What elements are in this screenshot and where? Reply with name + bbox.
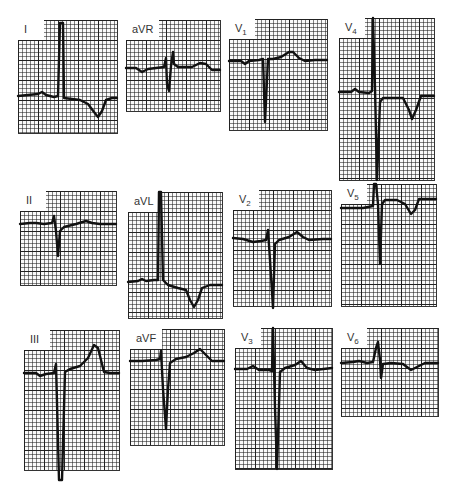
ecg-waveform <box>339 18 434 180</box>
ecg-trace <box>128 192 222 318</box>
ecg-trace <box>233 190 331 306</box>
ecg-lead-aVF: aVF <box>130 329 225 446</box>
ecg-waveform <box>235 328 332 469</box>
ecg-trace <box>339 18 434 180</box>
ecg-lead-V5: V5 <box>341 184 437 307</box>
ecg-trace <box>341 328 438 416</box>
ecg-waveform <box>233 230 331 308</box>
ecg-waveform <box>229 52 327 122</box>
ecg-waveform <box>18 23 117 117</box>
ecg-trace <box>20 191 116 285</box>
ecg-trace <box>126 20 220 111</box>
ecg-waveform <box>128 192 222 307</box>
ecg-lead-II: II <box>20 191 117 286</box>
ecg-waveform <box>341 184 436 264</box>
ecg-trace <box>341 184 436 306</box>
ecg-trace <box>130 329 224 445</box>
ecg-waveform <box>20 216 116 256</box>
ecg-waveform <box>130 349 224 429</box>
ecg-trace <box>235 328 332 469</box>
ecg-lead-I: I <box>18 20 118 134</box>
ecg-lead-V3: V3 <box>235 328 333 470</box>
ecg-waveform <box>341 342 438 378</box>
ecg-lead-V2: V2 <box>233 190 332 307</box>
ecg-lead-III: III <box>24 330 120 471</box>
ecg-lead-V1: V1 <box>229 19 328 131</box>
ecg-lead-V6: V6 <box>341 328 439 417</box>
ecg-trace <box>24 330 119 470</box>
ecg-lead-aVL: aVL <box>128 192 223 319</box>
ecg-trace <box>18 20 117 133</box>
ecg-trace <box>229 19 327 130</box>
ecg-waveform <box>24 345 119 480</box>
ecg-lead-V4: V4 <box>339 18 435 181</box>
ecg-lead-aVR: aVR <box>126 20 221 112</box>
ecg-waveform <box>126 52 220 91</box>
